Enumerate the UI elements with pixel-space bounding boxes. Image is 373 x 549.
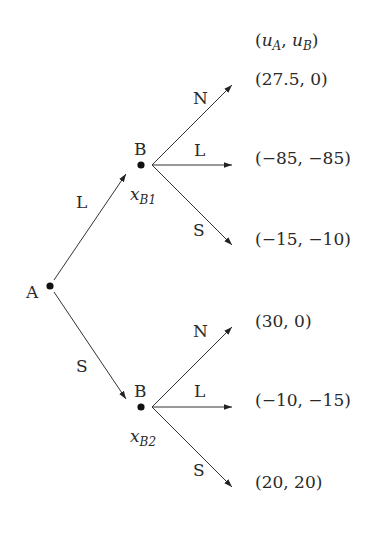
action-label-b1-S: S	[193, 220, 205, 240]
payoff-header: (uA, uB)	[255, 30, 319, 53]
edge-b2-N	[152, 327, 232, 407]
root-node-dot	[46, 282, 53, 289]
b1-node: B xB1	[130, 139, 156, 207]
payoff-b2-L: (−10, −15)	[255, 390, 351, 410]
b2-node-dot	[137, 403, 144, 410]
edge-b1-N	[152, 85, 232, 165]
edge-b2-S	[152, 407, 232, 487]
action-label-b1-L: L	[194, 140, 205, 160]
game-tree: (uA, uB) A L S B xB1 N L S (27.5, 0) (−8…	[0, 0, 373, 549]
b1-info-label: xB1	[130, 184, 156, 207]
payoff-b1-N: (27.5, 0)	[255, 69, 328, 89]
b2-player-label: B	[134, 381, 147, 401]
edge-root-to-b1	[54, 174, 126, 280]
payoff-b1-L: (−85, −85)	[255, 148, 351, 168]
action-label-b2-S: S	[193, 460, 205, 480]
edge-root-to-b2	[54, 292, 126, 399]
b2-node: B xB2	[130, 381, 156, 449]
b2-info-label: xB2	[130, 426, 156, 449]
payoff-b2-S: (20, 20)	[255, 472, 322, 492]
action-label-b1-N: N	[193, 88, 208, 108]
b1-player-label: B	[134, 139, 147, 159]
root-player-label: A	[25, 282, 39, 302]
payoff-b1-S: (−15, −10)	[255, 229, 351, 249]
action-label-b2-N: N	[193, 321, 208, 341]
action-label-root-L: L	[76, 192, 87, 212]
action-label-root-S: S	[76, 356, 88, 376]
action-label-b2-L: L	[194, 381, 205, 401]
payoff-b2-N: (30, 0)	[255, 311, 312, 331]
edge-b1-S	[152, 165, 232, 245]
root-node: A	[25, 282, 54, 302]
b1-node-dot	[137, 161, 144, 168]
